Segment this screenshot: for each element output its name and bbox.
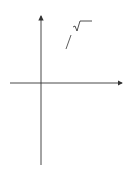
solid-of-revolution-diagram — [0, 0, 135, 174]
curve-equation-label — [73, 21, 92, 31]
label-leader-line — [66, 35, 71, 49]
radical-sign — [73, 21, 92, 31]
